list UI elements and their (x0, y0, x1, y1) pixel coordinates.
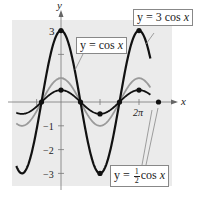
callout-cos-var: x (118, 38, 123, 52)
y-tick-label-minus-3: −3 (43, 169, 54, 180)
cosine-amplitude-chart: x y 3 −1 −2 −3 2π (0, 0, 199, 197)
callout-half-fraction: 12 (134, 168, 140, 185)
data-point-marker (156, 99, 161, 104)
data-point-marker (97, 111, 102, 116)
callout-half-text: y = (114, 168, 133, 182)
y-tick-label-minus-2: −2 (43, 145, 54, 156)
data-point-marker (58, 88, 63, 93)
callout-half-cos-x: y = 12cos x (110, 165, 169, 187)
y-axis-label: y (56, 0, 62, 11)
callout-cos-text: y = cos (80, 38, 118, 52)
data-point-marker (97, 171, 102, 176)
callout-cos-x: y = cos x (76, 37, 127, 54)
data-point-marker (136, 88, 141, 93)
callout-3-cos-x: y = 3 cos x (133, 9, 193, 26)
data-point-marker (136, 28, 141, 33)
callout-half-cos: cos (141, 168, 160, 182)
x-tick-label-2pi: 2π (133, 107, 144, 118)
data-point-marker (78, 99, 83, 104)
data-point-marker (39, 99, 44, 104)
callout-3cos-var: x (184, 10, 189, 24)
callout-half-var: x (160, 168, 165, 182)
x-axis-arrow-icon (171, 100, 178, 105)
callout-3cos-text: y = 3 cos (137, 10, 184, 24)
y-tick-label-minus-1: −1 (43, 121, 54, 132)
data-point-marker (117, 99, 122, 104)
data-point-marker (58, 28, 63, 33)
y-axis-arrow-icon (59, 10, 64, 17)
y-tick-label-3: 3 (49, 25, 55, 37)
x-axis-label: x (180, 95, 186, 107)
